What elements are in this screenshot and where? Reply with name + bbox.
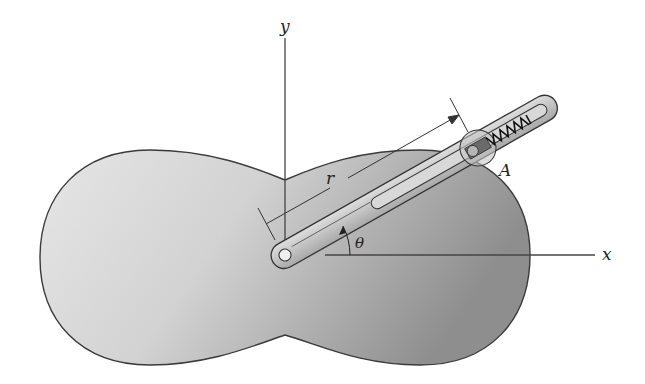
angle-label: θ [355,234,364,252]
cam-diagram: y x r θ A [0,0,645,384]
y-axis-label: y [279,16,290,36]
radius-label: r [326,168,335,188]
x-axis-label: x [602,244,612,264]
point-a-label: A [497,160,511,180]
